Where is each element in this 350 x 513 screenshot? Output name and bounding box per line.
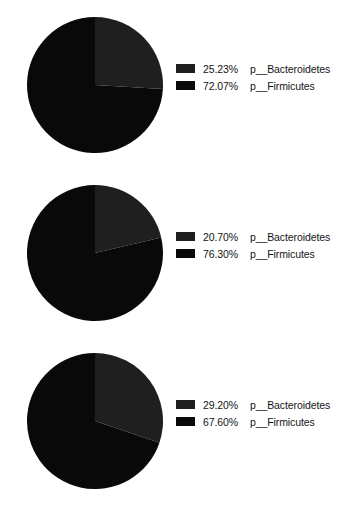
legend-swatch-firmicutes-icon bbox=[176, 81, 195, 90]
legend-label-bacteroidetes: p__Bacteroidetes bbox=[250, 63, 330, 75]
pie-slices-3 bbox=[27, 353, 163, 489]
pie-chart-1[interactable] bbox=[27, 17, 163, 153]
legend-label-bacteroidetes: p__Bacteroidetes bbox=[250, 399, 330, 411]
legend-percent-bacteroidetes: 20.70% bbox=[203, 231, 243, 243]
legend-percent-bacteroidetes: 25.23% bbox=[203, 63, 243, 75]
pie-slice-bacteroidetes[interactable] bbox=[95, 17, 163, 89]
pie-chart-3[interactable] bbox=[27, 353, 163, 489]
legend-swatch-firmicutes-icon bbox=[176, 417, 195, 426]
legend-1: 25.23% p__Bacteroidetes 72.07% p__Firmic… bbox=[176, 61, 350, 95]
legend-percent-firmicutes: 76.30% bbox=[203, 248, 243, 260]
pie-chart-panel-2: 20.70% p__Bacteroidetes 76.30% p__Firmic… bbox=[0, 168, 350, 339]
legend-label-firmicutes: p__Firmicutes bbox=[250, 80, 315, 92]
legend-swatch-firmicutes-icon bbox=[176, 249, 195, 258]
legend-swatch-bacteroidetes-icon bbox=[176, 232, 195, 241]
legend-label-firmicutes: p__Firmicutes bbox=[250, 248, 315, 260]
legend-percent-firmicutes: 72.07% bbox=[203, 80, 243, 92]
legend-label-bacteroidetes: p__Bacteroidetes bbox=[250, 231, 330, 243]
legend-swatch-bacteroidetes-icon bbox=[176, 64, 195, 73]
legend-percent-bacteroidetes: 29.20% bbox=[203, 399, 243, 411]
pie-slices-1 bbox=[27, 17, 163, 153]
legend-item-bacteroidetes[interactable]: 25.23% p__Bacteroidetes bbox=[176, 61, 350, 76]
legend-item-firmicutes[interactable]: 67.60% p__Firmicutes bbox=[176, 414, 350, 429]
pie-chart-2[interactable] bbox=[27, 185, 163, 321]
legend-2: 20.70% p__Bacteroidetes 76.30% p__Firmic… bbox=[176, 229, 350, 263]
legend-label-firmicutes: p__Firmicutes bbox=[250, 416, 315, 428]
legend-item-bacteroidetes[interactable]: 29.20% p__Bacteroidetes bbox=[176, 397, 350, 412]
pie-chart-panel-3: 29.20% p__Bacteroidetes 67.60% p__Firmic… bbox=[0, 336, 350, 507]
legend-item-firmicutes[interactable]: 76.30% p__Firmicutes bbox=[176, 246, 350, 261]
pie-chart-2-svg bbox=[27, 185, 163, 321]
legend-swatch-bacteroidetes-icon bbox=[176, 400, 195, 409]
pie-chart-1-svg bbox=[27, 17, 163, 153]
legend-item-firmicutes[interactable]: 72.07% p__Firmicutes bbox=[176, 78, 350, 93]
pie-slices-2 bbox=[27, 185, 163, 321]
legend-percent-firmicutes: 67.60% bbox=[203, 416, 243, 428]
legend-3: 29.20% p__Bacteroidetes 67.60% p__Firmic… bbox=[176, 397, 350, 431]
legend-item-bacteroidetes[interactable]: 20.70% p__Bacteroidetes bbox=[176, 229, 350, 244]
pie-chart-panel-1: 25.23% p__Bacteroidetes 72.07% p__Firmic… bbox=[0, 0, 350, 171]
pie-chart-3-svg bbox=[27, 353, 163, 489]
